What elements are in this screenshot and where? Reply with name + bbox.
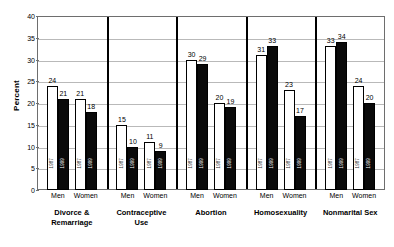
y-axis-tick-label: 25	[19, 78, 35, 85]
panel-divider	[315, 17, 317, 189]
y-axis-tick-mark	[36, 147, 39, 148]
y-axis-tick-mark	[36, 190, 39, 191]
y-axis-tick-label: 10	[19, 143, 35, 150]
gridline	[38, 104, 384, 105]
category-label-line: Use	[107, 218, 177, 228]
gridline	[38, 148, 384, 149]
category-label-line: Abortion	[176, 208, 246, 218]
y-axis-tick-labels: 0510152025303540	[17, 16, 35, 190]
y-axis-tick-mark	[36, 168, 39, 169]
x-axis-category-label: Abortion	[176, 208, 246, 218]
gridline	[38, 82, 384, 83]
x-axis-gender-label: Women	[203, 192, 247, 200]
x-axis-labels: MenWomenDivorce &RemarriageMenWomenContr…	[37, 192, 385, 247]
category-label-line: Homosexuality	[246, 208, 316, 218]
x-axis-category-label: Divorce &Remarriage	[37, 208, 107, 228]
y-axis-tick-label: 20	[19, 100, 35, 107]
gridline	[38, 39, 384, 40]
y-axis-tick-label: 30	[19, 56, 35, 63]
panel-divider	[176, 17, 178, 189]
x-axis-category-label: Homosexuality	[246, 208, 316, 218]
plot-area	[37, 16, 385, 190]
x-axis-gender-label: Women	[64, 192, 108, 200]
x-axis-gender-label: Women	[133, 192, 177, 200]
category-label-line: Remarriage	[37, 218, 107, 228]
y-axis-tick-mark	[36, 60, 39, 61]
panel-divider	[107, 17, 109, 189]
gridline	[38, 126, 384, 127]
x-axis-category-label: ContraceptiveUse	[107, 208, 177, 228]
y-axis-tick-label: 35	[19, 34, 35, 41]
category-label-line: Nonmarital Sex	[315, 208, 385, 218]
x-axis-gender-label: Women	[342, 192, 386, 200]
y-axis-tick-mark	[36, 103, 39, 104]
bar-chart: Percent 0510152025303540 241987211999211…	[0, 0, 394, 247]
y-axis-tick-mark	[36, 125, 39, 126]
y-axis-tick-mark	[36, 81, 39, 82]
x-axis-gender-label: Women	[273, 192, 317, 200]
y-axis-tick-label: 15	[19, 121, 35, 128]
y-axis-tick-label: 0	[19, 187, 35, 194]
y-axis-tick-mark	[36, 38, 39, 39]
y-axis-tick-label: 40	[19, 13, 35, 20]
gridline	[38, 169, 384, 170]
y-axis-tick-mark	[36, 16, 39, 17]
x-axis-category-label: Nonmarital Sex	[315, 208, 385, 218]
gridline	[38, 61, 384, 62]
category-label-line: Divorce &	[37, 208, 107, 218]
category-label-line: Contraceptive	[107, 208, 177, 218]
y-axis-tick-label: 5	[19, 165, 35, 172]
panel-divider	[246, 17, 248, 189]
